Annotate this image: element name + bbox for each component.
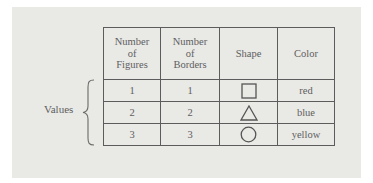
header-line: of xyxy=(104,48,160,60)
triangle-icon xyxy=(240,105,258,121)
cell-shape xyxy=(220,80,278,102)
cell-shape xyxy=(220,124,278,146)
cell-borders: 2 xyxy=(161,102,220,124)
table-row: 2 2 blue xyxy=(104,102,335,124)
cell-color: red xyxy=(278,80,335,102)
cell-shape xyxy=(220,102,278,124)
attributes-table: Number of Figures Number of Borders Shap… xyxy=(103,27,335,146)
left-brace-icon xyxy=(80,79,98,146)
cell-borders: 1 xyxy=(161,80,220,102)
table-row: 3 3 yellow xyxy=(104,124,335,146)
cell-figures: 3 xyxy=(104,124,161,146)
header-number-of-borders: Number of Borders xyxy=(161,28,220,80)
header-line: Number xyxy=(104,36,160,48)
cell-figures: 1 xyxy=(104,80,161,102)
header-row: Number of Figures Number of Borders Shap… xyxy=(104,28,335,80)
header-number-of-figures: Number of Figures xyxy=(104,28,161,80)
header-line: of xyxy=(161,48,219,60)
cell-borders: 3 xyxy=(161,124,220,146)
cell-figures: 2 xyxy=(104,102,161,124)
table-row: 1 1 red xyxy=(104,80,335,102)
values-label: Values xyxy=(44,103,73,115)
header-color: Color xyxy=(278,28,335,80)
header-line: Borders xyxy=(161,59,219,71)
circle-icon xyxy=(240,126,257,143)
header-line: Number xyxy=(161,36,219,48)
header-line: Figures xyxy=(104,59,160,71)
square-icon xyxy=(241,83,257,99)
cell-color: blue xyxy=(278,102,335,124)
cell-color: yellow xyxy=(278,124,335,146)
header-shape: Shape xyxy=(220,28,278,80)
